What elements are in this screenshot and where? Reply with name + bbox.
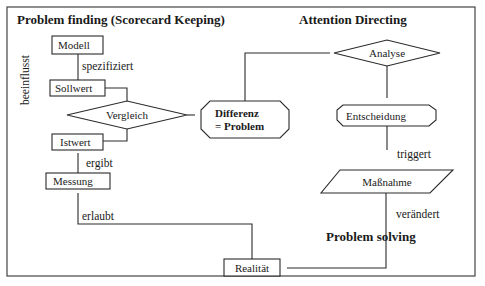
heading-problem-finding: Problem finding (Scorecard Keeping) [17, 12, 225, 27]
edge-label-triggert: triggert [397, 148, 432, 161]
heading-attention-directing: Attention Directing [299, 12, 407, 27]
process-diagram: Problem finding (Scorecard Keeping) Atte… [0, 0, 485, 286]
node-differenz-label-line1: Differenz [215, 107, 259, 119]
edge-label-spezifiziert: spezifiziert [82, 60, 134, 73]
node-realitaet-label: Realität [235, 262, 269, 274]
node-analyse-label: Analyse [369, 47, 405, 59]
edge-label-ergibt: ergibt [86, 157, 113, 170]
node-istwert-label: Istwert [60, 136, 91, 148]
connector-sollwert-vergleich [105, 88, 127, 101]
node-massnahme-label: Maßnahme [362, 176, 412, 188]
node-entscheidung: Entscheidung [337, 105, 436, 126]
node-messung-label: Messung [53, 175, 93, 187]
node-vergleich-label: Vergleich [106, 109, 148, 121]
node-realitaet: Realität [224, 259, 280, 276]
node-sollwert: Sollwert [50, 80, 105, 96]
edge-label-veraendert: verändert [396, 208, 440, 220]
edge-label-erlaubt: erlaubt [82, 210, 115, 222]
node-analyse: Analyse [334, 40, 440, 66]
connector-differenz-analyse [245, 53, 330, 101]
node-massnahme: Maßnahme [321, 170, 453, 193]
connector-istwert-vergleich [103, 129, 127, 141]
connector-messung-realitaet [78, 193, 252, 259]
node-sollwert-label: Sollwert [55, 82, 92, 94]
node-modell: Modell [52, 36, 103, 54]
node-differenz-label-line2: = Problem [215, 120, 264, 132]
node-vergleich: Vergleich [67, 101, 187, 129]
node-messung: Messung [46, 173, 110, 189]
node-entscheidung-label: Entscheidung [346, 110, 406, 122]
node-modell-label: Modell [58, 39, 90, 51]
node-differenz-problem: Differenz = Problem [201, 101, 289, 138]
node-istwert: Istwert [52, 134, 103, 150]
edge-label-beeinflusst: beeinflusst [19, 54, 31, 105]
heading-problem-solving: Problem solving [326, 229, 416, 244]
